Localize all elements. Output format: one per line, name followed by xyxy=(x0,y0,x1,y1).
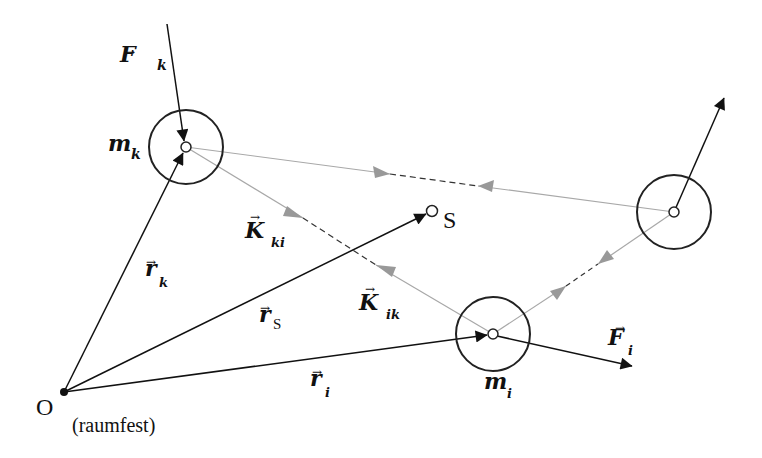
svg-text:F: F xyxy=(119,41,137,67)
svg-text:ik: ik xyxy=(386,307,400,322)
internal-line-k-i-dashed xyxy=(303,218,376,265)
vector-r-k xyxy=(64,153,183,392)
label-r-i: → r i xyxy=(310,365,330,400)
svg-text:k: k xyxy=(159,275,168,290)
label-m-i: m i xyxy=(484,368,512,401)
svg-text:k: k xyxy=(131,146,141,162)
svg-text:ki: ki xyxy=(271,235,285,250)
mass-i-point xyxy=(488,329,498,339)
internal-line-k-j-dashed xyxy=(390,174,478,186)
label-r-k: → r k xyxy=(145,255,168,290)
label-F-k: → F k xyxy=(119,41,167,73)
position-vectors xyxy=(64,153,487,392)
origin-point xyxy=(60,388,68,396)
svg-text:m: m xyxy=(484,368,507,394)
vector-F-k xyxy=(167,24,184,141)
internal-line-i-j-dashed xyxy=(566,264,598,286)
svg-text:F: F xyxy=(607,324,625,350)
svg-text:S: S xyxy=(273,316,281,332)
svg-text:K: K xyxy=(358,289,379,315)
label-origin-note: (raumfest) xyxy=(72,414,155,437)
internal-line-k-i-lower xyxy=(376,265,493,334)
label-S: S xyxy=(443,207,456,233)
svg-text:k: k xyxy=(157,57,167,73)
label-K-ki: → K ki xyxy=(244,210,285,250)
label-m-k: m k xyxy=(108,130,141,162)
svg-text:i: i xyxy=(507,386,512,401)
vector-F-j xyxy=(674,98,724,212)
mass-i xyxy=(456,297,530,371)
svg-text:i: i xyxy=(628,343,633,358)
label-F-i: → F i xyxy=(607,321,633,358)
label-K-ik: → K ik xyxy=(358,282,400,322)
mass-k-point xyxy=(181,142,191,152)
svg-text:m: m xyxy=(108,130,131,156)
mechanics-diagram: → F k m k → K ki S → r k → r S → K ik → … xyxy=(0,0,762,458)
grey-arrow-icon xyxy=(598,250,614,264)
svg-text:r: r xyxy=(259,301,272,327)
svg-text:r: r xyxy=(145,255,158,281)
grey-arrow-icon xyxy=(478,180,494,192)
vector-r-i xyxy=(64,335,487,392)
svg-text:K: K xyxy=(244,217,265,243)
mass-j xyxy=(637,175,711,249)
grey-arrow-icon xyxy=(373,166,390,178)
center-of-mass-point xyxy=(427,206,438,217)
mass-k xyxy=(149,110,223,184)
internal-line-k-i-upper xyxy=(186,147,303,218)
svg-text:i: i xyxy=(325,385,330,400)
label-r-s: → r S xyxy=(259,301,281,332)
label-origin: O xyxy=(36,394,53,420)
internal-line-k-j-left xyxy=(186,147,390,174)
mass-j-point xyxy=(669,207,679,217)
svg-text:r: r xyxy=(310,365,323,391)
grey-arrow-icon xyxy=(550,286,566,300)
